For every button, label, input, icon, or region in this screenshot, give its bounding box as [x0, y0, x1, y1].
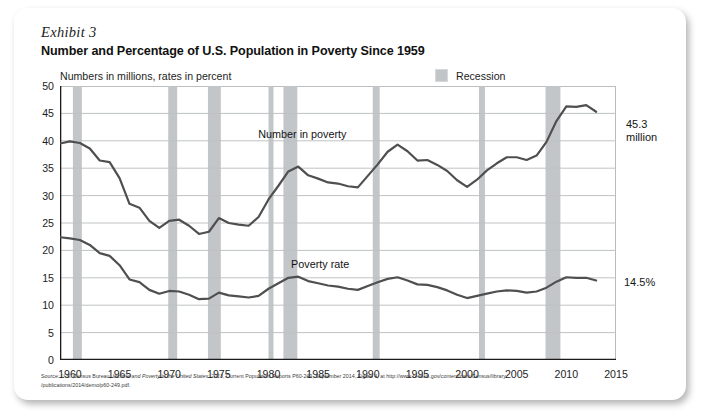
legend: Recession — [434, 68, 505, 83]
callout-poverty-rate: 14.5% — [624, 276, 655, 289]
recession-swatch-icon — [434, 68, 449, 83]
callout-number-unit: million — [626, 131, 657, 144]
y-tick-label: 20 — [28, 245, 54, 255]
callout-rate-value: 14.5% — [624, 276, 655, 289]
y-tick-label: 40 — [28, 136, 54, 146]
series-line-number-in-poverty — [60, 105, 596, 234]
y-tick-label: 35 — [28, 163, 54, 173]
y-tick-label: 15 — [28, 273, 54, 283]
exhibit-card: Exhibit 3 Number and Percentage of U.S. … — [14, 8, 686, 400]
series-label-poverty-rate: Poverty rate — [291, 258, 349, 270]
y-tick-label: 10 — [28, 300, 54, 310]
y-tick-label: 25 — [28, 218, 54, 228]
source-line2: /publications/2014/demo/p60-249.pdf. — [41, 382, 130, 388]
source-publication-title: Income and Poverty in the United States:… — [113, 373, 223, 379]
poverty-line-chart — [60, 86, 616, 360]
page-title: Number and Percentage of U.S. Population… — [41, 44, 425, 58]
source-note: Source: U.S. Census Bureau, Income and P… — [41, 372, 671, 389]
callout-number-in-poverty: 45.3 million — [626, 118, 657, 143]
source-prefix: Source: U.S. Census Bureau, — [41, 373, 113, 379]
exhibit-label: Exhibit 3 — [41, 24, 96, 41]
y-tick-label: 5 — [28, 328, 54, 338]
y-tick-label: 45 — [28, 108, 54, 118]
y-tick-label: 50 — [28, 81, 54, 91]
y-tick-label: 30 — [28, 191, 54, 201]
axis-units-note: Numbers in millions, rates in percent — [60, 70, 231, 82]
callout-number-value: 45.3 — [626, 118, 657, 131]
series-label-number-in-poverty: Number in poverty — [258, 128, 346, 140]
legend-item-label: Recession — [456, 70, 505, 82]
source-rest: , Current Population Reports P60-249, Se… — [223, 373, 506, 379]
chart-plot-area — [60, 86, 616, 360]
y-tick-label: 0 — [28, 355, 54, 365]
